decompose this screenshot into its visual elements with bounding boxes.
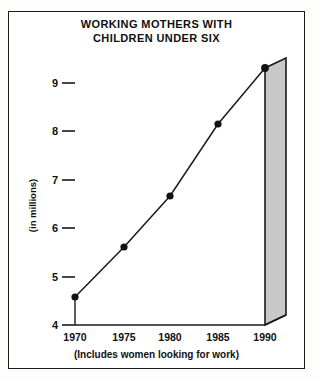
xtick-label-1985: 1985 [196, 332, 240, 343]
chart-caption: (Includes women looking for work) [8, 349, 305, 361]
data-point-1990 [261, 64, 269, 72]
data-point-1980 [166, 192, 173, 199]
xtick-label-1980: 1980 [148, 332, 192, 343]
ytick-label-4: 4 [40, 320, 58, 331]
ytick-label-6: 6 [40, 223, 58, 234]
xtick-label-1970: 1970 [53, 332, 97, 343]
figure-page: WORKING MOTHERS WITH CHILDREN UNDER SIX … [0, 0, 319, 381]
xtick-label-1990: 1990 [243, 332, 287, 343]
data-point-1975 [120, 243, 127, 250]
y-axis-title: (in millions) [27, 167, 38, 245]
ytick-label-7: 7 [40, 175, 58, 186]
ytick-label-5: 5 [40, 272, 58, 283]
highlight-column-3d [265, 58, 286, 325]
data-line [75, 68, 265, 297]
data-point-1970 [71, 293, 78, 300]
data-point-1985 [214, 120, 221, 127]
axis-baseline [75, 315, 286, 325]
ytick-label-8: 8 [40, 126, 58, 137]
xtick-label-1975: 1975 [102, 332, 146, 343]
ytick-label-9: 9 [40, 78, 58, 89]
